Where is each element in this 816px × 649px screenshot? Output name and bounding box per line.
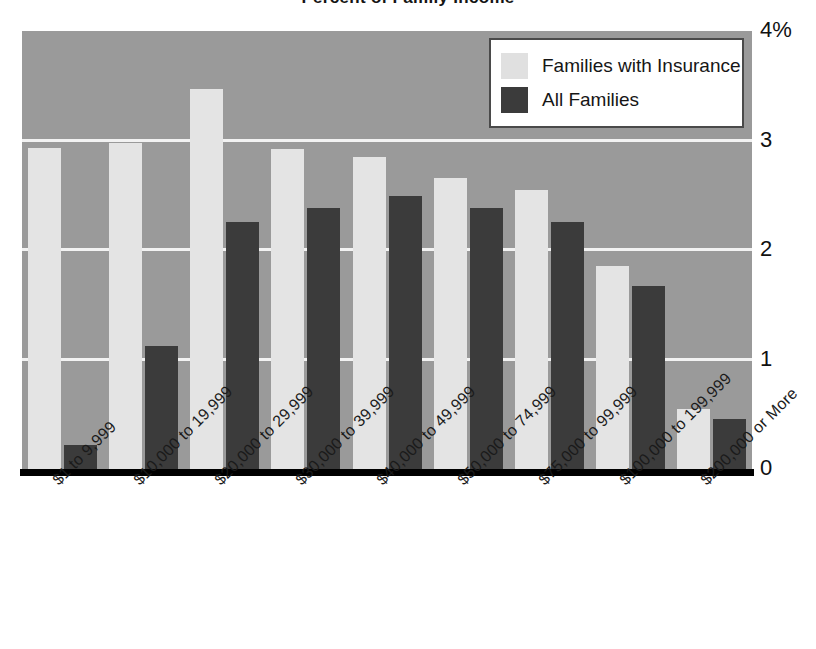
legend-swatch-icon (501, 87, 528, 113)
y-tick-label-3: 3 (760, 129, 772, 151)
legend-item-label: Families with Insurance (542, 55, 741, 77)
chart-title-clipped: Percent of Family Income (0, 0, 816, 6)
bar-families-with-insurance (109, 143, 142, 469)
y-tick-label-2: 2 (760, 238, 772, 260)
legend-item: Families with Insurance (501, 49, 732, 83)
legend-item-label: All Families (542, 89, 639, 111)
y-tick-label-4pct: 4% (760, 19, 792, 41)
bar-families-with-insurance (596, 266, 629, 469)
y-tick-label-1: 1 (760, 348, 772, 370)
bar-all-families (389, 196, 422, 469)
bar-all-families (470, 208, 503, 469)
legend-item: All Families (501, 83, 732, 117)
bar-chart: Percent of Family Income 01234% $1 to 9,… (0, 0, 816, 649)
bar-all-families (307, 208, 340, 469)
x-axis-tick-labels: $1 to 9,999$10,000 to 19,999$20,000 to 2… (0, 476, 816, 649)
legend-swatch-icon (501, 53, 528, 79)
bar-families-with-insurance (28, 148, 61, 469)
legend: Families with Insurance All Families (489, 38, 744, 128)
